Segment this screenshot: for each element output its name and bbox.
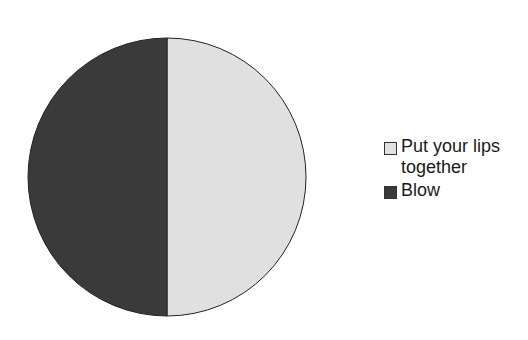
- legend-label: Put your lips together: [401, 136, 524, 178]
- legend-swatch-dark: [384, 186, 397, 199]
- legend-item-put-your-lips-together: Put your lips together: [384, 136, 524, 178]
- legend-label: Blow: [401, 180, 440, 201]
- pie-slice-blow: [28, 38, 167, 316]
- pie-slice-put-your-lips-together: [167, 38, 306, 316]
- legend-swatch-light: [384, 142, 397, 155]
- legend-item-blow: Blow: [384, 180, 524, 201]
- legend: Put your lips together Blow: [384, 136, 524, 203]
